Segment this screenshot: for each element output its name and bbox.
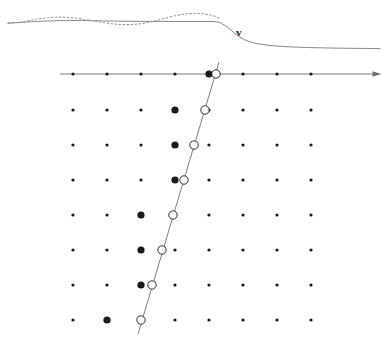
lattice-small-dot bbox=[105, 178, 108, 181]
lattice-open-circle bbox=[158, 246, 166, 254]
lattice-large-dot bbox=[137, 281, 144, 288]
lattice-small-dot bbox=[275, 283, 278, 286]
lattice-small-dot bbox=[241, 283, 244, 286]
lattice-small-dot bbox=[309, 318, 312, 321]
lattice-small-dot bbox=[71, 318, 74, 321]
lattice-small-dot bbox=[105, 72, 108, 75]
lattice-small-dot bbox=[207, 178, 210, 181]
top-panel-group bbox=[8, 13, 380, 48]
lattice-small-dot bbox=[139, 178, 142, 181]
lattice-open-circle bbox=[190, 141, 198, 149]
lattice-small-dot bbox=[241, 108, 244, 111]
lattice-small-dot bbox=[71, 213, 74, 216]
lattice-small-dot bbox=[309, 178, 312, 181]
dotted-oscillation-curve bbox=[8, 13, 220, 24]
lattice-small-dot bbox=[173, 318, 176, 321]
lattice-small-dot bbox=[207, 248, 210, 251]
lattice-small-dot bbox=[309, 213, 312, 216]
lattice-velocity-figure: a an rarameter as us ras v bbox=[0, 0, 386, 347]
lattice-open-circle bbox=[137, 316, 145, 324]
lattice-group bbox=[60, 62, 382, 334]
lattice-small-dot bbox=[139, 72, 142, 75]
lattice-small-dot bbox=[309, 283, 312, 286]
lattice-large-dot bbox=[103, 316, 110, 323]
lattice-small-dot bbox=[105, 213, 108, 216]
lattice-small-dot bbox=[309, 72, 312, 75]
solid-velocity-curve bbox=[8, 20, 380, 48]
lattice-small-dot bbox=[139, 143, 142, 146]
lattice-open-circle bbox=[201, 106, 209, 114]
lattice-large-dot bbox=[171, 106, 178, 113]
lattice-small-dot bbox=[241, 318, 244, 321]
lattice-small-dot bbox=[309, 248, 312, 251]
lattice-open-circle bbox=[180, 176, 188, 184]
lattice-small-dot bbox=[241, 72, 244, 75]
lattice-large-dot bbox=[171, 176, 178, 183]
lattice-open-circle bbox=[169, 211, 177, 219]
lattice-small-dot bbox=[139, 108, 142, 111]
lattice-small-dot bbox=[173, 283, 176, 286]
lattice-small-dot bbox=[275, 213, 278, 216]
lattice-large-dot bbox=[137, 246, 144, 253]
lattice-small-dot bbox=[207, 283, 210, 286]
lattice-small-dot bbox=[71, 178, 74, 181]
lattice-small-dot bbox=[105, 108, 108, 111]
lattice-small-dot bbox=[207, 213, 210, 216]
lattice-small-dot bbox=[275, 248, 278, 251]
lattice-large-dots bbox=[103, 70, 212, 323]
lattice-small-dot bbox=[173, 248, 176, 251]
lattice-small-dot bbox=[105, 143, 108, 146]
lattice-small-dot bbox=[207, 318, 210, 321]
lattice-small-dot bbox=[309, 143, 312, 146]
slanted-trajectory-line bbox=[138, 62, 219, 334]
lattice-small-dot bbox=[173, 72, 176, 75]
axis-arrowhead bbox=[373, 71, 382, 77]
lattice-large-dot bbox=[137, 211, 144, 218]
lattice-small-dot bbox=[71, 72, 74, 75]
velocity-label: v bbox=[236, 26, 242, 38]
lattice-small-dot bbox=[71, 248, 74, 251]
lattice-open-circle bbox=[148, 281, 156, 289]
lattice-small-dot bbox=[207, 143, 210, 146]
lattice-small-dot bbox=[71, 143, 74, 146]
lattice-small-dot bbox=[241, 143, 244, 146]
lattice-large-dot bbox=[171, 141, 178, 148]
lattice-open-circle bbox=[212, 70, 220, 78]
lattice-small-dot bbox=[105, 283, 108, 286]
lattice-small-dots bbox=[71, 72, 312, 321]
lattice-small-dot bbox=[309, 108, 312, 111]
lattice-small-dot bbox=[275, 178, 278, 181]
lattice-small-dot bbox=[275, 318, 278, 321]
lattice-small-dot bbox=[275, 143, 278, 146]
figure-canvas bbox=[0, 0, 386, 347]
lattice-small-dot bbox=[241, 178, 244, 181]
lattice-small-dot bbox=[241, 248, 244, 251]
lattice-small-dot bbox=[71, 283, 74, 286]
lattice-small-dot bbox=[275, 108, 278, 111]
lattice-small-dot bbox=[241, 213, 244, 216]
lattice-small-dot bbox=[275, 72, 278, 75]
lattice-small-dot bbox=[71, 108, 74, 111]
lattice-small-dot bbox=[105, 248, 108, 251]
